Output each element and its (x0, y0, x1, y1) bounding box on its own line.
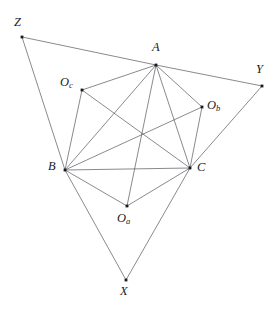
vertex-point-Ob (201, 106, 204, 109)
point-label-Y-text: Y (256, 62, 263, 76)
point-label-Oa-subscript: a (126, 216, 130, 226)
vertices-group (21, 36, 264, 282)
vertex-point-Y (261, 85, 264, 88)
edge-B-C (65, 168, 190, 170)
point-label-Ob-text: O (207, 98, 216, 112)
point-label-Oc-subscript: c (69, 80, 73, 90)
edge-C-Oa (127, 168, 190, 206)
point-label-Z: Z (14, 16, 21, 29)
point-label-X-text: X (120, 284, 128, 298)
point-label-Ob-subscript: b (216, 103, 220, 113)
point-label-Ob: Ob (207, 99, 220, 113)
edge-C-Oc (82, 90, 190, 168)
vertex-point-C (189, 167, 192, 170)
vertex-point-Z (21, 36, 24, 39)
point-label-A: A (152, 41, 160, 54)
point-label-Oc-text: O (60, 75, 69, 89)
point-label-Oa-text: O (117, 211, 126, 225)
edge-A-Y (156, 65, 262, 86)
point-label-X: X (120, 285, 128, 298)
edge-A-B (65, 65, 156, 170)
geometry-diagram: ZAYOcObBCOaX (0, 0, 278, 312)
edge-Z-A (22, 37, 156, 65)
vertex-point-Oa (126, 205, 129, 208)
point-label-Oa: Oa (117, 212, 130, 226)
geometry-canvas (0, 0, 278, 312)
point-label-A-text: A (152, 40, 160, 54)
vertex-point-A (155, 64, 158, 67)
edge-X-C (126, 168, 190, 280)
edge-A-Oa (127, 65, 156, 206)
vertex-point-B (64, 169, 67, 172)
point-label-B-text: B (48, 159, 56, 173)
point-label-C: C (197, 161, 205, 174)
edge-Z-B (22, 37, 65, 170)
edge-B-Ob (65, 107, 202, 170)
edge-C-Y (190, 86, 262, 168)
edges-group (22, 37, 262, 280)
edge-B-Oa (65, 170, 127, 206)
edge-C-Ob (190, 107, 202, 168)
point-label-Oc: Oc (60, 76, 73, 90)
point-label-C-text: C (197, 160, 205, 174)
vertex-point-X (125, 279, 128, 282)
vertex-point-Oc (81, 89, 84, 92)
point-label-Y: Y (256, 63, 263, 76)
point-label-B: B (48, 160, 56, 173)
edge-B-Oc (65, 90, 82, 170)
point-label-Z-text: Z (14, 15, 21, 29)
